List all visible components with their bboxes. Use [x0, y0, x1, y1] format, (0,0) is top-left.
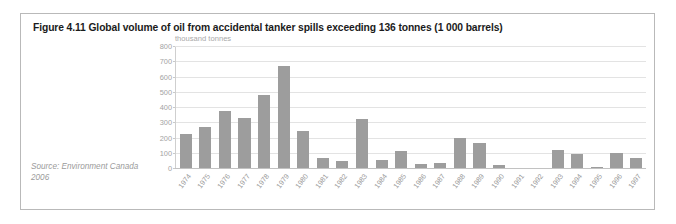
x-axis-tick-slot: 1979 — [274, 171, 294, 201]
x-axis-tick-slot: 1975 — [196, 171, 216, 201]
x-axis-line — [175, 168, 646, 169]
bar-slot — [176, 47, 196, 168]
y-axis-tick-label: 300 — [160, 118, 172, 127]
bar-slot — [450, 47, 470, 168]
x-axis-tick-slot: 1996 — [607, 171, 627, 201]
bar-slot — [626, 47, 646, 168]
y-axis-tick-label: 600 — [160, 72, 172, 81]
bar-slot — [196, 47, 216, 168]
bar — [571, 154, 583, 168]
x-axis-tick-slot: 1977 — [235, 171, 255, 201]
x-axis-tick-slot: 1983 — [352, 171, 372, 201]
bar — [219, 111, 231, 168]
x-axis-tick-label: 1979 — [274, 172, 291, 190]
x-axis-tick-label: 1990 — [489, 172, 506, 190]
x-axis-tick-slot: 1986 — [411, 171, 431, 201]
x-axis-tick-label: 1980 — [293, 172, 310, 190]
bar — [454, 138, 466, 168]
figure-title: Figure 4.11 Global volume of oil from ac… — [33, 22, 503, 33]
bar-slot — [528, 47, 548, 168]
x-axis-tick-labels: 1974197519761977197819791980198119821983… — [176, 171, 646, 201]
y-axis-tick-label: 200 — [160, 133, 172, 142]
bar — [630, 158, 642, 168]
bar-slot — [352, 47, 372, 168]
y-axis-unit-label: thousand tonnes — [175, 34, 231, 43]
x-axis-tick-label: 1995 — [587, 172, 604, 190]
x-axis-tick-slot: 1985 — [391, 171, 411, 201]
x-axis-tick-slot: 1981 — [313, 171, 333, 201]
x-axis-tick-label: 1992 — [528, 172, 545, 190]
x-axis-tick-slot: 1995 — [587, 171, 607, 201]
bar — [356, 119, 368, 168]
bar-slot — [274, 47, 294, 168]
bar — [610, 153, 622, 168]
y-axis-tick-label: 400 — [160, 103, 172, 112]
x-axis-tick-label: 1986 — [411, 172, 428, 190]
x-axis-tick-label: 1997 — [626, 172, 643, 190]
bar-slot — [489, 47, 509, 168]
bar — [297, 131, 309, 168]
y-axis-tick-label: 100 — [160, 148, 172, 157]
y-axis-tick-label: 500 — [160, 87, 172, 96]
plot-area: 0100200300400500600700800 — [175, 47, 646, 169]
bar-slot — [548, 47, 568, 168]
bar-slot — [470, 47, 490, 168]
bar-slot — [568, 47, 588, 168]
bar — [376, 160, 388, 168]
x-axis-tick-label: 1974 — [176, 172, 193, 190]
x-axis-tick-slot: 1992 — [528, 171, 548, 201]
bar-slot — [431, 47, 451, 168]
x-axis-tick-slot: 1991 — [509, 171, 529, 201]
bar-slot — [235, 47, 255, 168]
bar-slot — [607, 47, 627, 168]
bar — [258, 95, 270, 168]
x-axis-tick-label: 1981 — [313, 172, 330, 190]
bar-slot — [411, 47, 431, 168]
bar-slot — [587, 47, 607, 168]
bar-slot — [215, 47, 235, 168]
bar — [180, 134, 192, 168]
x-axis-tick-label: 1987 — [430, 172, 447, 190]
x-axis-tick-label: 1983 — [352, 172, 369, 190]
x-axis-tick-slot: 1988 — [450, 171, 470, 201]
x-axis-tick-label: 1996 — [607, 172, 624, 190]
x-axis-tick-slot: 1993 — [548, 171, 568, 201]
y-axis-tick-label: 700 — [160, 57, 172, 66]
bar-slot — [313, 47, 333, 168]
x-axis-tick-label: 1988 — [450, 172, 467, 190]
bar — [278, 66, 290, 168]
x-axis-tick-slot: 1997 — [626, 171, 646, 201]
bar-slot — [254, 47, 274, 168]
x-axis-tick-label: 1982 — [333, 172, 350, 190]
bar-slot — [333, 47, 353, 168]
x-axis-tick-label: 1994 — [567, 172, 584, 190]
x-axis-tick-label: 1975 — [196, 172, 213, 190]
x-axis-tick-label: 1978 — [254, 172, 271, 190]
bar-slot — [293, 47, 313, 168]
x-axis-tick-slot: 1994 — [568, 171, 588, 201]
x-axis-tick-label: 1977 — [235, 172, 252, 190]
bar — [317, 158, 329, 168]
x-axis-tick-label: 1984 — [372, 172, 389, 190]
bar — [238, 118, 250, 168]
x-axis-tick-slot: 1987 — [431, 171, 451, 201]
x-axis-tick-label: 1976 — [215, 172, 232, 190]
x-axis-tick-slot: 1989 — [470, 171, 490, 201]
bar-slot — [391, 47, 411, 168]
bar-chart: thousand tonnes 010020030040050060070080… — [151, 34, 648, 206]
y-axis-tick-label: 0 — [168, 164, 172, 173]
bar — [199, 127, 211, 168]
bar-slot — [509, 47, 529, 168]
x-axis-tick-slot: 1984 — [372, 171, 392, 201]
y-axis-tick-label: 800 — [160, 42, 172, 51]
bar — [395, 151, 407, 168]
x-axis-tick-slot: 1980 — [293, 171, 313, 201]
x-axis-tick-slot: 1978 — [254, 171, 274, 201]
x-axis-tick-label: 1989 — [470, 172, 487, 190]
x-axis-tick-label: 1991 — [509, 172, 526, 190]
x-axis-tick-slot: 1990 — [489, 171, 509, 201]
figure-panel: Figure 4.11 Global volume of oil from ac… — [20, 13, 655, 210]
x-axis-tick-label: 1985 — [391, 172, 408, 190]
x-axis-tick-label: 1993 — [548, 172, 565, 190]
x-axis-tick-slot: 1982 — [333, 171, 353, 201]
